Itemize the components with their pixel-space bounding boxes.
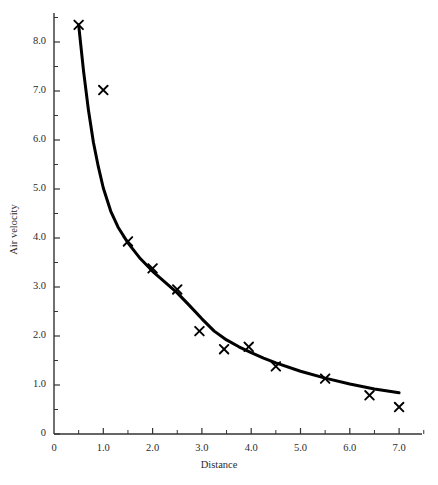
x-tick-label: 1.0 — [83, 442, 123, 453]
x-tick-label: 7.0 — [379, 442, 419, 453]
data-point-marker — [244, 342, 253, 351]
fitted-curve-path — [79, 25, 399, 393]
y-tick-label: 7.0 — [8, 84, 46, 95]
y-tick-label: 6.0 — [8, 133, 46, 144]
data-point-marker — [195, 327, 204, 336]
y-tick-label: 0 — [8, 427, 46, 438]
y-axis-title: Air velocity — [8, 185, 19, 275]
x-axis-title: Distance — [0, 459, 438, 470]
axis-lines — [54, 13, 422, 434]
x-tick-label: 6.0 — [330, 442, 370, 453]
chart-figure: 01.02.03.04.05.06.07.08.0 01.02.03.04.05… — [0, 0, 438, 485]
x-tick-label: 4.0 — [231, 442, 271, 453]
data-point-marker — [220, 345, 229, 354]
x-tick-label: 2.0 — [133, 442, 173, 453]
x-axis-ticks — [79, 428, 424, 434]
x-tick-label: 3.0 — [182, 442, 222, 453]
data-point-marker — [365, 391, 374, 400]
x-tick-label: 5.0 — [281, 442, 321, 453]
data-point-markers — [74, 21, 403, 412]
y-tick-label: 1.0 — [8, 378, 46, 389]
data-point-marker — [395, 403, 404, 412]
x-tick-label: 0 — [34, 442, 74, 453]
chart-plot-area — [0, 0, 438, 485]
y-tick-label: 2.0 — [8, 329, 46, 340]
y-tick-label: 3.0 — [8, 280, 46, 291]
fitted-curve — [79, 25, 399, 393]
y-tick-label: 8.0 — [8, 35, 46, 46]
data-point-marker — [99, 86, 108, 95]
y-axis-ticks — [54, 18, 60, 435]
